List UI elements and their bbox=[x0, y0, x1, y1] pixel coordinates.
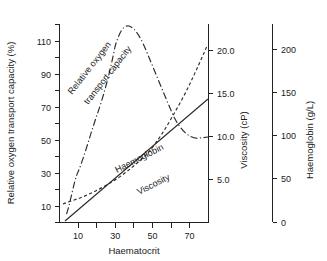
curve-label-viscosity: Viscosity bbox=[135, 172, 171, 197]
y-axis-left-label-10: 10 bbox=[41, 202, 51, 212]
curve-relative-oxygen-transport-capacity bbox=[67, 26, 209, 214]
y-axis-viscosity-label-20: 20.0 bbox=[217, 46, 235, 56]
y-axis-haemoglobin-label-100: 100 bbox=[281, 131, 296, 141]
y-axis-haemoglobin-title: Haemoglobin (g/L) bbox=[304, 101, 315, 179]
chart-figure: 110 90 70 50 30 10 Relative oxygen trans… bbox=[0, 0, 327, 261]
plot-curves bbox=[63, 26, 208, 221]
y-axis-left-label-30: 30 bbox=[41, 169, 51, 179]
y-axis-haemoglobin-label-200: 200 bbox=[281, 45, 296, 55]
y-axis-viscosity-label-5: 5.0 bbox=[217, 175, 230, 185]
x-axis-label-30: 30 bbox=[110, 231, 120, 241]
y-axis-haemoglobin-label-50: 50 bbox=[281, 174, 291, 184]
y-axis-viscosity: 20.0 15.0 10.0 5.0 Viscosity (cP) bbox=[209, 24, 250, 222]
curve-label-haemoglobin: Haemoglobin bbox=[113, 142, 165, 175]
y-axis-left: 110 90 70 50 30 10 Relative oxygen trans… bbox=[5, 24, 60, 222]
y-axis-haemoglobin: 200 150 100 50 0 Haemoglobin (g/L) bbox=[273, 24, 316, 228]
y-axis-left-label-70: 70 bbox=[41, 103, 51, 113]
x-axis: 10 30 50 70 Haematocrit bbox=[60, 223, 209, 257]
x-axis-label-10: 10 bbox=[73, 231, 83, 241]
y-axis-viscosity-label-15: 15.0 bbox=[217, 89, 235, 99]
chart-svg: 110 90 70 50 30 10 Relative oxygen trans… bbox=[0, 0, 327, 261]
y-axis-haemoglobin-label-0: 0 bbox=[281, 218, 286, 228]
y-axis-left-title: Relative oxygen transport capacity (%) bbox=[5, 42, 16, 205]
y-axis-left-label-50: 50 bbox=[41, 136, 51, 146]
y-axis-viscosity-title: Viscosity (cP) bbox=[238, 111, 249, 168]
y-axis-left-label-110: 110 bbox=[37, 37, 51, 47]
curve-annotations: Relative oxygen transport capacity Haemo… bbox=[66, 40, 172, 197]
x-axis-label-50: 50 bbox=[147, 231, 157, 241]
y-axis-haemoglobin-label-150: 150 bbox=[281, 88, 296, 98]
y-axis-left-label-90: 90 bbox=[41, 70, 51, 80]
y-axis-viscosity-label-10: 10.0 bbox=[217, 132, 235, 142]
x-axis-label-70: 70 bbox=[185, 231, 195, 241]
x-axis-title: Haematocrit bbox=[108, 245, 160, 256]
